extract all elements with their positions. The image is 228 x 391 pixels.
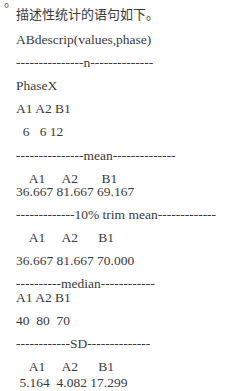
section-header-mean: ---------------mean-------------- (16, 148, 176, 164)
n-column-headers: A1 A2 B1 (16, 101, 71, 117)
trim-mean-column-headers: A1 A2 B1 (16, 230, 114, 246)
sd-values: 5.164 4.082 17.299 (16, 375, 127, 391)
median-column-headers: A1 A2 B1 (16, 290, 71, 306)
n-values: 6 6 12 (16, 124, 63, 140)
trim-mean-values: 36.667 81.667 70.000 (16, 253, 134, 269)
intro-text: 描述性统计的语句如下。 (16, 7, 159, 23)
median-values: 40 80 70 (16, 313, 70, 329)
section-header-n: ---------------n-------------- (16, 55, 153, 71)
section-header-sd: ------------SD-------------- (16, 336, 150, 352)
r-command: ABdescrip(values,phase) (16, 32, 151, 48)
n-phase-label: PhaseX (16, 78, 57, 94)
mean-values: 36.667 81.667 69.167 (16, 184, 134, 200)
section-header-trim-mean: -------------10% trim mean------------- (16, 207, 216, 223)
sd-column-headers: A1 A2 B1 (16, 359, 114, 375)
